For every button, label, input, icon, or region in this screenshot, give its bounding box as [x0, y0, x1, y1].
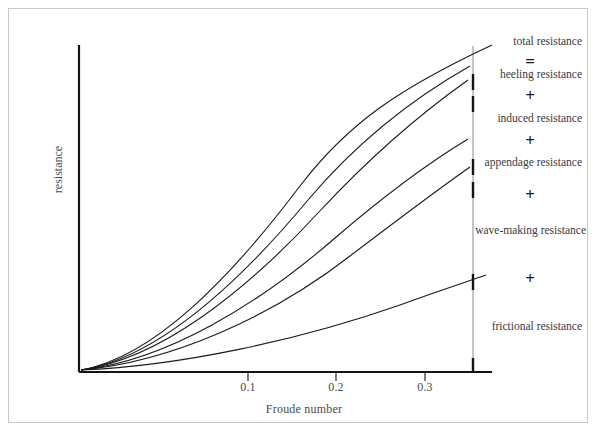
x-tick-label-0.2: 0.2 — [320, 380, 352, 395]
curve-wave-making — [81, 167, 470, 370]
plot-canvas — [0, 0, 600, 438]
legend-plus-sign-1: + — [518, 86, 542, 106]
legend-total-resistance: total resistance — [430, 35, 582, 47]
legend-appendage-resistance: appendage resistance — [430, 156, 582, 168]
legend-plus-sign-2: + — [518, 131, 542, 151]
x-axis-title: Froude number — [234, 402, 374, 417]
curve-appendage — [81, 139, 468, 370]
legend-induced-resistance: induced resistance — [430, 112, 582, 124]
figure-container: resistance 0.1 0.2 0.3 Froude number tot… — [0, 0, 600, 438]
legend-wave-making-resistance: wave-making resistance — [420, 224, 586, 236]
y-axis-title: resistance — [51, 130, 66, 210]
legend-plus-sign-3: + — [518, 185, 542, 205]
x-tick-label-0.3: 0.3 — [409, 380, 441, 395]
x-tick-label-0.1: 0.1 — [232, 380, 264, 395]
curve-induced — [81, 80, 468, 370]
legend-plus-sign-4: + — [518, 269, 542, 289]
legend-frictional-resistance: frictional resistance — [430, 320, 582, 332]
legend-heeling-resistance: heeling resistance — [430, 68, 582, 80]
